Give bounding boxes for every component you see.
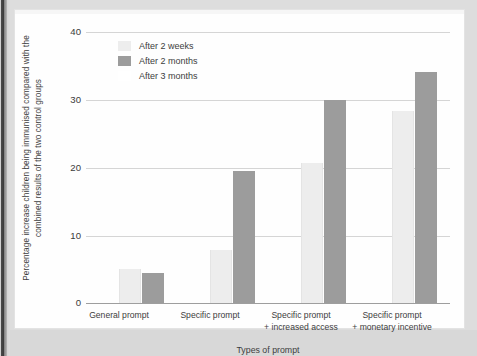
y-axis-label-line2: combined results of the two control grou… [33,14,45,302]
y-axis-label: Percentage increase children being immun… [21,14,51,302]
y-tick-label-20: 20 [51,162,81,173]
y-tick-label-10: 10 [51,230,81,241]
y-tick-label-0: 0 [51,297,81,308]
bar-monetary-incentive-after-2-months[interactable] [415,72,437,303]
bar-specific-prompt-after-2-months[interactable] [233,171,255,303]
x-category-monetary-incentive-line2: + monetary incentive [337,322,447,334]
bar-chart-plot: Percentage increase children being immun… [15,10,466,330]
y-axis-label-line1: Percentage increase children being immun… [21,14,33,302]
legend-swatch-after-2-weeks [118,41,131,51]
legend-item-after-3-months[interactable]: After 3 months [118,68,198,83]
bar-monetary-incentive-after-2-weeks[interactable] [392,111,414,303]
figure-panel: Percentage increase children being immun… [14,9,465,329]
bar-general-prompt-after-2-weeks[interactable] [119,269,141,303]
chart-screenshot: Percentage increase children being immun… [0,0,477,356]
legend-item-after-2-months[interactable]: After 2 months [118,53,198,68]
y-tick-label-30: 30 [51,94,81,105]
bar-specific-prompt-after-2-weeks[interactable] [210,250,232,303]
legend-swatch-after-3-months [118,71,131,81]
x-category-monetary-incentive: Specific prompt + monetary incentive [337,310,447,333]
scan-edge-strip [0,0,10,356]
legend-label-after-2-weeks: After 2 weeks [139,41,194,51]
x-category-monetary-incentive-line1: Specific prompt [337,310,447,322]
y-tick-label-40: 40 [51,26,81,37]
legend-item-after-2-weeks[interactable]: After 2 weeks [118,38,198,53]
x-axis-label: Types of prompt [86,345,450,355]
chart-legend: After 2 weeks After 2 months After 3 mon… [118,38,198,83]
bar-increased-access-after-2-months[interactable] [324,100,346,303]
legend-label-after-3-months: After 3 months [139,71,198,81]
legend-label-after-2-months: After 2 months [139,56,198,66]
bar-general-prompt-after-2-months[interactable] [142,273,164,303]
legend-swatch-after-2-months [118,56,131,66]
bar-increased-access-after-2-weeks[interactable] [301,163,323,303]
